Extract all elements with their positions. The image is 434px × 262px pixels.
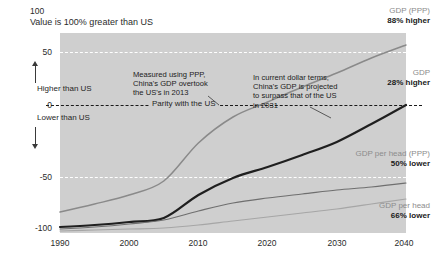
series-name-gdp-per-head: GDP per head xyxy=(379,201,430,211)
y-tick-50: 50 xyxy=(8,47,52,57)
series-name-gdp-ppp: GDP (PPP) xyxy=(387,6,430,16)
series-value-gdp-ppp: 88% higher xyxy=(387,16,430,26)
chart-subtitle: Value is 100% greater than US xyxy=(30,17,153,28)
series-label-gdp-per-head-ppp: GDP per head (PPP) 50% lower xyxy=(355,149,430,168)
y-tick-minus-100: -100 xyxy=(8,223,52,233)
x-tick-2010: 2010 xyxy=(189,238,208,248)
annotation-ppp-overtake: Measured using PPP, China's GDP overtook… xyxy=(133,70,208,98)
y-tick-minus-50: -50 xyxy=(8,172,52,182)
gridline-zero-parity xyxy=(46,105,422,106)
arrow-down-shaft xyxy=(35,127,36,145)
lower-than-us-label: Lower than US xyxy=(37,113,90,123)
x-tick-2040: 2040 xyxy=(395,238,414,248)
higher-than-us-label: Higher than US xyxy=(37,84,92,94)
y-tick-0: 0 xyxy=(8,100,52,110)
series-label-gdp-per-head: GDP per head 66% lower xyxy=(379,201,430,220)
series-value-gdp-per-head-ppp: 50% lower xyxy=(355,159,430,169)
series-label-gdp: GDP 28% higher xyxy=(387,68,430,87)
gridline-50 xyxy=(60,52,406,53)
gridline-minus-50 xyxy=(60,177,406,178)
annotation-usd-surpass: In current dollar terms, China's GDP is … xyxy=(253,73,337,110)
x-tick-1990: 1990 xyxy=(51,238,70,248)
series-value-gdp: 28% higher xyxy=(387,78,430,88)
series-label-gdp-ppp: GDP (PPP) 88% higher xyxy=(387,6,430,25)
arrow-down-icon xyxy=(32,144,38,149)
x-tick-2020: 2020 xyxy=(258,238,277,248)
series-name-gdp: GDP xyxy=(387,68,430,78)
series-value-gdp-per-head: 66% lower xyxy=(379,211,430,221)
x-tick-2030: 2030 xyxy=(328,238,347,248)
plot-area xyxy=(60,33,406,233)
parity-label: Parity with the US xyxy=(150,99,218,109)
axis-top-value: 100 xyxy=(30,6,44,16)
arrow-up-shaft xyxy=(35,65,36,83)
series-name-gdp-per-head-ppp: GDP per head (PPP) xyxy=(355,149,430,159)
x-tick-2000: 2000 xyxy=(120,238,139,248)
chart-container: 100 Value is 100% greater than US Parity… xyxy=(0,0,434,262)
